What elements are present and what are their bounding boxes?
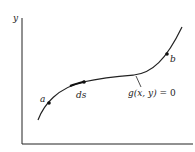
curve-label: g(x, y) = 0 (128, 88, 176, 98)
constraint-curve (38, 27, 182, 120)
curve-diagram: y a ds b g(x, y) = 0 (0, 0, 195, 152)
y-axis-label: y (12, 13, 19, 23)
point-b (165, 52, 169, 56)
point-ds-label: ds (76, 90, 87, 100)
point-a-label: a (40, 94, 45, 104)
point-ds (82, 80, 86, 84)
point-b-label: b (170, 54, 176, 64)
curve-label-equals: = 0 (157, 88, 176, 98)
curve-label-leader (136, 76, 141, 87)
curve-label-function: g(x, y) (128, 88, 157, 98)
point-a (47, 101, 51, 105)
